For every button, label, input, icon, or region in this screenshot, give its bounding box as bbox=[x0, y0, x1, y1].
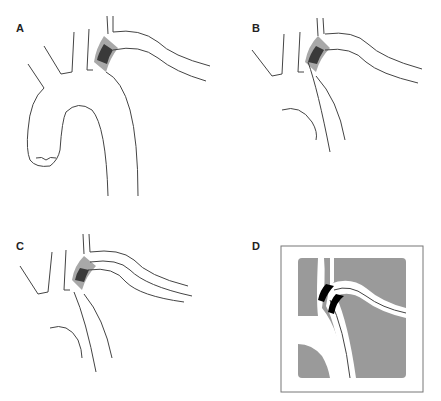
panel-d-magnified-view bbox=[281, 246, 423, 392]
figure-canvas bbox=[0, 0, 441, 401]
vessel-left-subclavian bbox=[330, 258, 334, 286]
panel-a-aortic-arch-diagram bbox=[27, 16, 210, 196]
panel-b-arch-diagram bbox=[252, 18, 422, 152]
panel-c-arch-diagram bbox=[20, 234, 192, 372]
